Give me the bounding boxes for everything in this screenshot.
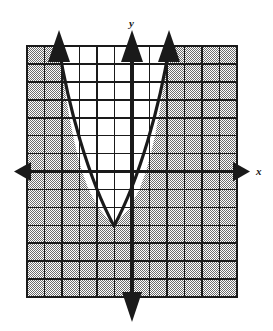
x-axis-label: x (256, 166, 262, 177)
x-axis-left-arrow-icon (14, 162, 31, 181)
graph-figure: x y (0, 0, 273, 331)
x-axis-right-arrow-icon (233, 162, 250, 181)
y-axis-down-arrow-icon (122, 292, 142, 322)
y-axis-label: y (129, 18, 134, 29)
coordinate-plane-svg (0, 0, 273, 331)
